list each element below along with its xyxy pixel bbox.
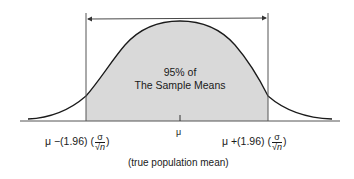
left-bound-label: μ −(1.96) (σ√n) (45, 133, 109, 152)
right-bound-prefix: μ +(1.96) ( (222, 135, 271, 147)
sigma-over-root-n: σ√n (272, 133, 282, 152)
sigma-over-root-n: σ√n (95, 133, 105, 152)
arrow-head-right-icon (262, 16, 267, 21)
caption: (true population mean) (128, 157, 229, 169)
mu-label: μ (176, 126, 181, 138)
left-bound-prefix: μ −(1.96) ( (45, 135, 94, 147)
center-text-line2: The Sample Means (118, 79, 242, 92)
right-bound-suffix: ) (283, 135, 287, 147)
center-annotation: 95% of The Sample Means (118, 66, 242, 92)
left-bound-suffix: ) (106, 135, 110, 147)
range-arrow (88, 18, 266, 19)
right-bound-label: μ +(1.96) (σ√n) (222, 133, 286, 152)
arrow-head-left-icon (87, 17, 92, 22)
center-text-line1: 95% of (118, 66, 242, 79)
